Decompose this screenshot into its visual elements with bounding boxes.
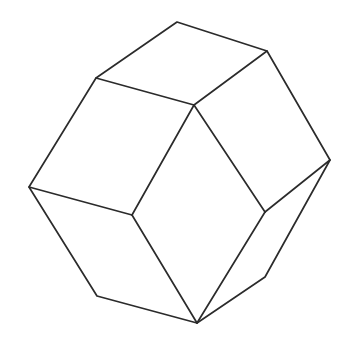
polyhedron-figure (0, 0, 350, 345)
figure-canvas (0, 0, 350, 345)
